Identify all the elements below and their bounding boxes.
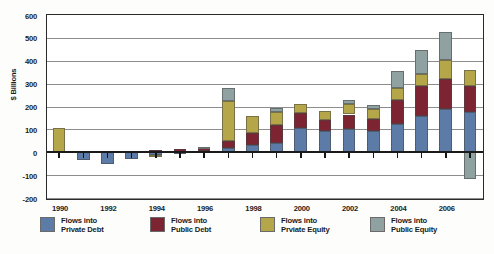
bar-segment xyxy=(222,141,235,148)
bar-segment xyxy=(439,109,452,152)
legend-label: Flows intoPrviate Equity xyxy=(281,216,330,235)
x-tick-mark xyxy=(58,153,60,158)
x-tick-mark xyxy=(179,153,181,158)
bar-segment xyxy=(270,125,283,143)
bar-segment xyxy=(319,111,332,120)
bar-column[interactable] xyxy=(415,15,428,199)
legend-label: Flows intoPrivate Debt xyxy=(61,216,104,235)
x-tick-mark xyxy=(131,153,133,158)
x-tick-label: 2004 xyxy=(390,204,406,213)
bar-column[interactable] xyxy=(198,15,211,199)
y-tick-label: 600 xyxy=(25,11,37,20)
legend-label: Flows intoPublic Debt xyxy=(171,216,211,235)
plot-area xyxy=(46,14,484,200)
bar-segment xyxy=(367,109,380,119)
bar-segment xyxy=(391,100,404,124)
x-tick-mark xyxy=(276,153,278,158)
x-tick-label: 2006 xyxy=(439,204,455,213)
x-tick-label: 1996 xyxy=(197,204,213,213)
x-tick-mark xyxy=(203,153,205,158)
bar-column[interactable] xyxy=(464,15,477,199)
legend-swatch-private-equity xyxy=(260,217,275,232)
legend-swatch-public-debt xyxy=(150,217,165,232)
chart-figure: $ Billions -200-1000100200300400500600 1… xyxy=(0,0,494,254)
y-tick-label: -200 xyxy=(23,194,37,203)
bar-column[interactable] xyxy=(149,15,162,199)
bar-column[interactable] xyxy=(125,15,138,199)
bar-segment xyxy=(439,60,452,79)
x-tick-mark xyxy=(228,153,230,158)
x-tick-mark xyxy=(83,153,85,158)
x-tick-mark xyxy=(252,153,254,158)
bar-column[interactable] xyxy=(343,15,356,199)
legend-label-line2: Prviate Equity xyxy=(281,225,330,234)
bar-column[interactable] xyxy=(270,15,283,199)
x-tick-label: 1994 xyxy=(149,204,165,213)
legend-item[interactable]: Flows intoPublic Debt xyxy=(150,216,252,235)
bar-segment xyxy=(246,116,259,133)
y-tick-label: 300 xyxy=(25,80,37,89)
x-tick-label: 1998 xyxy=(245,204,261,213)
x-tick-label: 2002 xyxy=(342,204,358,213)
bar-column[interactable] xyxy=(391,15,404,199)
legend-label-line1: Flows into xyxy=(281,216,330,225)
y-axis: $ Billions -200-1000100200300400500600 xyxy=(0,14,44,200)
y-tick-label: 400 xyxy=(25,57,37,66)
bar-segment xyxy=(294,104,307,113)
legend-item[interactable]: Flows intoPrivate Debt xyxy=(40,216,142,235)
legend-item[interactable]: Flows intoPrviate Equity xyxy=(260,216,362,235)
x-tick-mark xyxy=(348,153,350,158)
bar-column[interactable] xyxy=(77,15,90,199)
x-tick-label: 2000 xyxy=(294,204,310,213)
bar-segment xyxy=(464,86,477,112)
legend-label-line2: Private Debt xyxy=(61,225,104,234)
legend-label-line1: Flows into xyxy=(171,216,211,225)
bar-segment xyxy=(464,70,477,86)
x-tick-mark xyxy=(397,153,399,158)
legend-label-line1: Flows into xyxy=(391,216,437,225)
bar-segment xyxy=(294,128,307,152)
x-tick-label: 1992 xyxy=(100,204,116,213)
bar-column[interactable] xyxy=(174,15,187,199)
bar-segment xyxy=(270,108,283,113)
legend-label: Flows intoPublic Equity xyxy=(391,216,437,235)
legend-label-line1: Flows into xyxy=(61,216,104,225)
y-tick-label: 100 xyxy=(25,125,37,134)
bar-segment xyxy=(343,100,356,105)
bar-segment xyxy=(415,86,428,116)
bar-column[interactable] xyxy=(294,15,307,199)
bar-segment xyxy=(294,113,307,128)
x-tick-mark xyxy=(421,153,423,158)
bar-segment xyxy=(198,147,211,149)
bar-segment xyxy=(319,120,332,130)
bar-segment xyxy=(367,119,380,130)
x-tick-mark xyxy=(469,153,471,158)
bar-segment xyxy=(246,133,259,146)
bar-segment xyxy=(270,112,283,125)
bar-segment xyxy=(367,105,380,108)
bar-series-group xyxy=(47,15,483,199)
bar-segment xyxy=(343,115,356,130)
x-tick-mark xyxy=(107,153,109,158)
bar-segment xyxy=(53,128,66,153)
x-axis-labels: 199019921994199619982000200220042006 xyxy=(46,201,484,217)
legend-item[interactable]: Flows intoPublic Equity xyxy=(370,216,472,235)
x-tick-mark xyxy=(445,153,447,158)
bar-column[interactable] xyxy=(222,15,235,199)
bar-segment xyxy=(222,101,235,141)
bar-column[interactable] xyxy=(439,15,452,199)
bar-column[interactable] xyxy=(53,15,66,199)
bar-segment xyxy=(391,124,404,153)
bar-column[interactable] xyxy=(367,15,380,199)
bar-column[interactable] xyxy=(246,15,259,199)
bar-column[interactable] xyxy=(319,15,332,199)
y-axis-title: $ Billions xyxy=(9,49,18,121)
x-tick-mark xyxy=(373,153,375,158)
bar-segment xyxy=(415,116,428,153)
y-tick-label: -100 xyxy=(23,171,37,180)
y-tick-label: 0 xyxy=(33,148,37,157)
bar-segment xyxy=(222,88,235,101)
y-tick-label: 200 xyxy=(25,103,37,112)
x-tick-mark xyxy=(324,153,326,158)
bar-column[interactable] xyxy=(101,15,114,199)
